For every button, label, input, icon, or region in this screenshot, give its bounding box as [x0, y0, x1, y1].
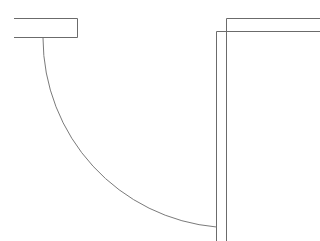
floor-plan-drawing — [0, 0, 320, 241]
floor-plan-canvas — [0, 0, 320, 241]
drawing-background — [0, 0, 320, 241]
